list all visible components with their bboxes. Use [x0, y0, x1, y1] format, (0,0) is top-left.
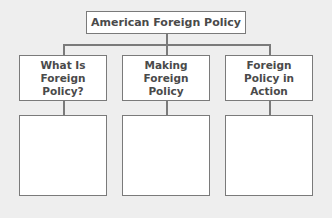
category-node-2-label: Making Foreign Policy — [144, 59, 189, 98]
lower-connector-3 — [269, 101, 271, 115]
branch-connector-3 — [269, 44, 271, 55]
category-node-1-label: What Is Foreign Policy? — [41, 59, 86, 98]
root-node: American Foreign Policy — [86, 11, 246, 34]
notes-box-1[interactable] — [19, 115, 107, 196]
category-node-3: Foreign Policy in Action — [225, 55, 313, 101]
category-node-1: What Is Foreign Policy? — [19, 55, 107, 101]
root-connector — [166, 34, 168, 44]
branch-connector-1 — [63, 44, 65, 55]
category-node-3-label: Foreign Policy in Action — [244, 59, 294, 98]
notes-box-2[interactable] — [122, 115, 210, 196]
lower-connector-1 — [63, 101, 65, 115]
notes-box-3[interactable] — [225, 115, 313, 196]
branch-connector-2 — [166, 44, 168, 55]
lower-connector-2 — [166, 101, 168, 115]
root-node-label: American Foreign Policy — [91, 16, 241, 29]
category-node-2: Making Foreign Policy — [122, 55, 210, 101]
